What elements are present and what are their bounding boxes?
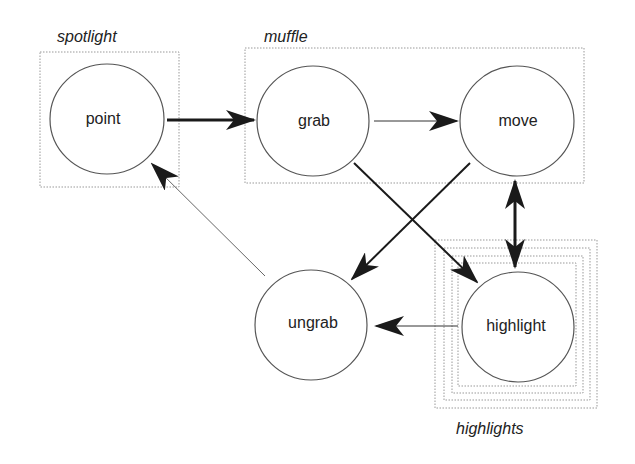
state-diagram: spotlight muffle highlights point grab m… — [0, 0, 635, 464]
node-highlight-label: highlight — [486, 317, 546, 334]
spotlight-group-label: spotlight — [57, 28, 117, 45]
highlights-group-label: highlights — [456, 420, 524, 437]
node-ungrab: ungrab — [255, 270, 367, 380]
node-point-label: point — [86, 110, 121, 127]
muffle-group-label: muffle — [264, 28, 308, 45]
edge-move-to-ungrab — [352, 163, 470, 279]
node-grab-label: grab — [298, 112, 330, 129]
node-point: point — [50, 64, 164, 174]
node-ungrab-label: ungrab — [288, 314, 338, 331]
node-grab: grab — [257, 66, 369, 176]
node-move: move — [460, 66, 574, 176]
node-highlight: highlight — [462, 272, 574, 382]
node-move-label: move — [498, 112, 537, 129]
edge-ungrab-to-point — [152, 164, 265, 276]
edge-grab-to-highlight — [354, 163, 477, 282]
